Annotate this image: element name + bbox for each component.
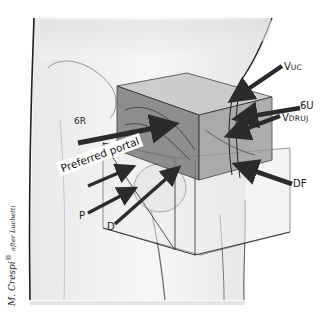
wrist-portal-illustration: VUC 6U VDRUJ 6R DF P D Preferred portal … — [0, 0, 335, 321]
artist-credit: M. Crespi® after Luchetti — [4, 206, 17, 307]
label-6r: 6R — [74, 117, 86, 126]
label-vuc: VUC — [284, 62, 302, 72]
label-p: P — [79, 211, 85, 221]
label-vdruj: VDRUJ — [282, 113, 308, 123]
label-6u: 6U — [300, 101, 314, 111]
label-df: DF — [293, 179, 306, 189]
illustration-canvas — [0, 0, 335, 321]
label-d: D — [107, 222, 115, 232]
